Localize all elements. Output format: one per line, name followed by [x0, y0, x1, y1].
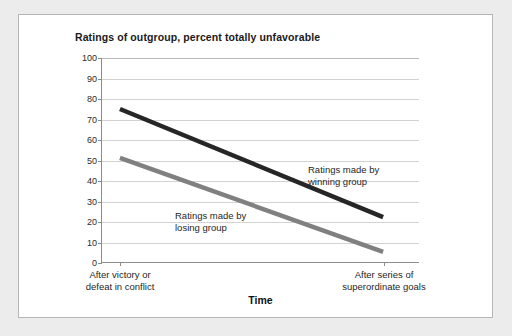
xtick-mark-1 — [384, 262, 385, 266]
series-plot — [102, 58, 419, 262]
ytick-label-60: 60 — [87, 135, 97, 145]
xtick-mark-0 — [120, 262, 121, 266]
ytick-label-70: 70 — [87, 115, 97, 125]
xtick-label-1-line2: superordinate goals — [342, 281, 425, 293]
ytick-label-20: 20 — [87, 217, 97, 227]
ytick-label-10: 10 — [87, 238, 97, 248]
ytick-label-90: 90 — [87, 74, 97, 84]
xtick-label-0: After victory or defeat in conflict — [86, 269, 155, 293]
annotation-winning-group: Ratings made by winning group — [308, 164, 379, 188]
annotation-losing-line2: losing group — [175, 222, 246, 234]
ytick-mark-0 — [98, 263, 102, 264]
xtick-label-1-line1: After series of — [342, 269, 425, 281]
xtick-label-1: After series of superordinate goals — [342, 269, 425, 293]
ytick-label-0: 0 — [92, 258, 97, 268]
xtick-label-0-line1: After victory or — [86, 269, 155, 281]
xtick-label-0-line2: defeat in conflict — [86, 281, 155, 293]
ytick-label-100: 100 — [82, 53, 97, 63]
chart-panel: Ratings of outgroup, percent totally unf… — [18, 14, 493, 318]
figure-root: Ratings of outgroup, percent totally unf… — [0, 0, 512, 336]
gridline-0: 0 — [102, 263, 419, 264]
xaxis-title: Time — [248, 294, 272, 306]
ytick-label-80: 80 — [87, 94, 97, 104]
annotation-losing-group: Ratings made by losing group — [175, 210, 246, 234]
ytick-label-50: 50 — [87, 156, 97, 166]
ytick-label-40: 40 — [87, 176, 97, 186]
annotation-winning-line2: winning group — [308, 176, 379, 188]
annotation-losing-line1: Ratings made by — [175, 210, 246, 222]
plot-area: 100 90 80 70 60 50 — [101, 58, 419, 263]
annotation-winning-line1: Ratings made by — [308, 164, 379, 176]
ytick-label-30: 30 — [87, 197, 97, 207]
chart-title: Ratings of outgroup, percent totally unf… — [75, 31, 320, 43]
